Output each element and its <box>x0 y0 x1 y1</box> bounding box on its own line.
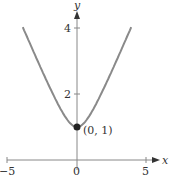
x-tick-label: 5 <box>142 165 149 178</box>
x-tick-label: −5 <box>0 165 15 178</box>
y-axis-label: y <box>73 0 81 12</box>
point-label: (0, 1) <box>83 124 113 137</box>
point-marker <box>74 124 81 131</box>
y-tick-label: 2 <box>64 88 71 101</box>
y-axis-arrow-icon <box>74 11 80 19</box>
x-axis-label: x <box>162 154 169 167</box>
x-tick-label: 0 <box>73 165 80 178</box>
y-tick-label: 4 <box>64 22 71 35</box>
chart: −5 0 5 2 4 x y (0, 1) <box>0 0 169 179</box>
x-axis-arrow-icon <box>152 157 160 163</box>
